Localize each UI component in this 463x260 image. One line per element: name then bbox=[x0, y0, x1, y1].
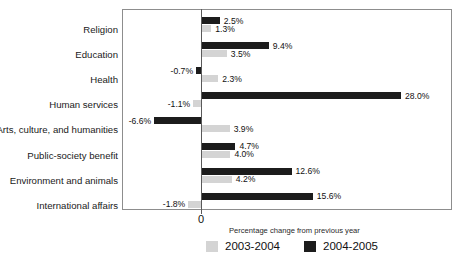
grouped-bar-chart: · · 0 ReligionEducationHealthHuman servi… bbox=[0, 0, 463, 260]
bar-value-label: 28.0% bbox=[405, 92, 429, 100]
chart-legend: 2003-2004 2004-2005 bbox=[206, 240, 378, 252]
bar-value-label: 4.2% bbox=[236, 175, 256, 183]
bar-value-label: -6.6% bbox=[129, 117, 151, 125]
bar-2004-2005-public-society-benefit bbox=[202, 143, 235, 150]
bar-2003-2004-public-society-benefit bbox=[202, 151, 230, 158]
category-label: International affairs bbox=[0, 201, 118, 211]
bar-2003-2004-environment-and-animals bbox=[202, 176, 232, 183]
plot-area bbox=[122, 9, 452, 210]
legend-label: 2004-2005 bbox=[323, 240, 378, 252]
bar-2003-2004-arts-culture-and-humanities bbox=[202, 125, 230, 132]
clipped-title: · · bbox=[0, 0, 463, 1]
category-label: Religion bbox=[0, 25, 118, 35]
bar-value-label: -1.8% bbox=[163, 200, 185, 208]
bar-value-label: 15.6% bbox=[317, 192, 341, 200]
zero-axis-label: 0 bbox=[193, 213, 209, 225]
bar-2003-2004-human-services bbox=[193, 100, 201, 107]
bar-2004-2005-health bbox=[196, 67, 201, 74]
bar-value-label: -1.1% bbox=[168, 100, 190, 108]
bar-value-label: 12.6% bbox=[296, 167, 320, 175]
bar-2003-2004-international-affairs bbox=[188, 201, 201, 208]
bar-value-label: 3.5% bbox=[231, 50, 251, 58]
bar-value-label: 1.3% bbox=[215, 25, 235, 33]
legend-label: 2003-2004 bbox=[225, 240, 280, 252]
bar-2003-2004-health bbox=[202, 75, 218, 82]
category-label: Public-society benefit bbox=[0, 151, 118, 161]
bar-value-label: 4.0% bbox=[234, 150, 254, 158]
legend-swatch-icon bbox=[304, 241, 316, 252]
category-label: Education bbox=[0, 50, 118, 60]
bar-2004-2005-religion bbox=[202, 17, 220, 24]
category-label: Environment and animals bbox=[0, 176, 118, 186]
bar-value-label: -0.7% bbox=[171, 67, 193, 75]
bar-2003-2004-education bbox=[202, 50, 227, 57]
bar-2004-2005-international-affairs bbox=[202, 193, 313, 200]
bar-2004-2005-human-services bbox=[202, 92, 401, 99]
bar-value-label: 3.9% bbox=[234, 125, 254, 133]
category-label: Arts, culture, and humanities bbox=[0, 125, 118, 135]
legend-item-2003-2004: 2003-2004 bbox=[206, 240, 280, 252]
bar-2003-2004-religion bbox=[202, 25, 211, 32]
axis-caption: Percentage change from previous year bbox=[229, 226, 360, 235]
legend-swatch-icon bbox=[206, 241, 218, 252]
bar-value-label: 9.4% bbox=[273, 42, 293, 50]
bar-value-label: 2.3% bbox=[222, 75, 242, 83]
category-label: Health bbox=[0, 75, 118, 85]
category-label: Human services bbox=[0, 100, 118, 110]
bar-2004-2005-arts-culture-and-humanities bbox=[154, 117, 201, 124]
legend-item-2004-2005: 2004-2005 bbox=[304, 240, 378, 252]
